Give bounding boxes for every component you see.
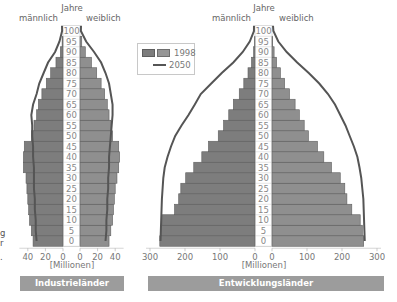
bar-female bbox=[272, 215, 360, 226]
bar-female bbox=[272, 68, 280, 79]
age-label: 5 bbox=[69, 226, 74, 236]
bar-female bbox=[80, 110, 109, 121]
age-label: 80 bbox=[66, 68, 77, 78]
clipped-text-2: r bbox=[0, 238, 4, 248]
bar-male bbox=[24, 141, 63, 152]
bar-female bbox=[80, 162, 119, 173]
bar-male bbox=[26, 173, 63, 184]
age-label: 70 bbox=[66, 89, 77, 99]
bar-male bbox=[31, 131, 63, 142]
bar-male bbox=[37, 110, 63, 121]
bar-male bbox=[161, 225, 255, 236]
bar-male bbox=[27, 183, 63, 194]
age-label: 45 bbox=[258, 142, 269, 152]
bar-female bbox=[80, 47, 85, 58]
left-unit-label: [Millionen] bbox=[50, 260, 95, 270]
age-label: 100 bbox=[255, 26, 271, 36]
age-label: 90 bbox=[258, 47, 269, 57]
x-tick-label: 200 bbox=[334, 252, 350, 262]
age-label: 10 bbox=[258, 215, 269, 225]
age-label: 40 bbox=[66, 152, 77, 162]
bar-female bbox=[80, 236, 109, 247]
bar-female bbox=[272, 131, 308, 142]
age-label: 35 bbox=[66, 163, 77, 173]
bar-male bbox=[175, 204, 256, 215]
bar-male bbox=[162, 215, 255, 226]
x-tick-label: 200 bbox=[177, 252, 193, 262]
age-label: 30 bbox=[66, 173, 77, 183]
bar-male bbox=[23, 152, 63, 163]
age-label: 60 bbox=[66, 110, 77, 120]
bar-female bbox=[272, 225, 362, 236]
bar-female bbox=[272, 236, 364, 247]
right-female-label: weiblich bbox=[279, 13, 314, 23]
bar-male bbox=[233, 99, 255, 110]
right-title-bar: Entwicklungsländer bbox=[148, 276, 384, 291]
age-label: 75 bbox=[258, 79, 269, 89]
age-label: 80 bbox=[258, 68, 269, 78]
bar-male bbox=[194, 162, 255, 173]
bar-male bbox=[33, 236, 63, 247]
bar-female bbox=[272, 162, 332, 173]
age-label: 85 bbox=[258, 58, 269, 68]
bar-female bbox=[80, 152, 120, 163]
bar-male bbox=[51, 68, 63, 79]
bar-female bbox=[272, 78, 285, 89]
age-label: 0 bbox=[261, 236, 266, 246]
bar-male bbox=[60, 47, 63, 58]
legend-swatch-female bbox=[157, 49, 170, 57]
bar-female bbox=[80, 204, 113, 215]
right-unit-label: [Millionen] bbox=[242, 260, 287, 270]
legend: 1998 2050 bbox=[137, 43, 195, 75]
x-tick-label: 300 bbox=[142, 252, 158, 262]
bar-female bbox=[80, 99, 107, 110]
legend-label-1998: 1998 bbox=[174, 48, 196, 58]
bar-male bbox=[202, 152, 255, 163]
bar-female bbox=[80, 183, 115, 194]
right-years-label: Jahre bbox=[252, 3, 275, 13]
left-years-label: Jahre bbox=[60, 3, 83, 13]
age-label: 60 bbox=[258, 110, 269, 120]
bar-female bbox=[80, 194, 114, 205]
bar-male bbox=[244, 78, 255, 89]
bar-female bbox=[80, 89, 105, 100]
bar-male bbox=[160, 236, 255, 247]
bar-female bbox=[80, 141, 119, 152]
bar-male bbox=[34, 120, 63, 131]
bar-female bbox=[272, 57, 277, 68]
bar-female bbox=[80, 68, 97, 79]
left-female-label: weiblich bbox=[86, 13, 121, 23]
bar-female bbox=[272, 89, 290, 100]
age-label: 70 bbox=[258, 89, 269, 99]
age-label: 5 bbox=[261, 226, 266, 236]
bar-female bbox=[272, 99, 295, 110]
age-label: 30 bbox=[258, 173, 269, 183]
bar-female bbox=[272, 173, 340, 184]
bar-male bbox=[181, 183, 255, 194]
age-label: 75 bbox=[66, 79, 77, 89]
bar-female bbox=[272, 194, 347, 205]
age-label: 65 bbox=[66, 100, 77, 110]
age-label: 100 bbox=[63, 26, 79, 36]
age-label: 55 bbox=[258, 121, 269, 131]
legend-label-2050: 2050 bbox=[169, 60, 191, 70]
right-male-label: männlich bbox=[212, 13, 251, 23]
bar-male bbox=[218, 131, 255, 142]
bar-female bbox=[80, 57, 91, 68]
bar-female bbox=[272, 183, 345, 194]
x-tick-label: 100 bbox=[212, 252, 228, 262]
bar-male bbox=[239, 89, 255, 100]
bar-female bbox=[272, 110, 299, 121]
age-label: 90 bbox=[66, 47, 77, 57]
bar-female bbox=[272, 120, 304, 131]
bar-male bbox=[224, 120, 256, 131]
bar-male bbox=[46, 78, 63, 89]
bar-male bbox=[56, 57, 63, 68]
age-label: 85 bbox=[66, 58, 77, 68]
bar-female bbox=[80, 120, 111, 131]
industrial-countries-pyramid: 0510152025303540455055606570758085909510… bbox=[19, 26, 123, 263]
age-label: 65 bbox=[258, 100, 269, 110]
bar-male bbox=[28, 194, 63, 205]
bar-male bbox=[29, 204, 63, 215]
x-tick-label: 100 bbox=[299, 252, 315, 262]
